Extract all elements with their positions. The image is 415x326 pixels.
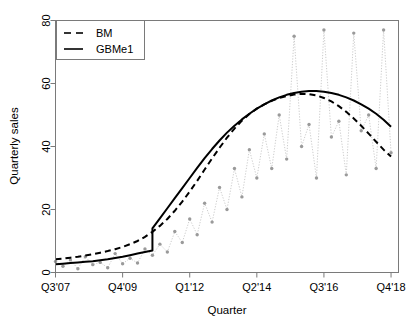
quarterly-sales-chart: 020406080 Q3'07Q4'09Q1'12Q2'14Q3'16Q4'18… [0,0,415,326]
x-axis-tick-label: Q2'14 [242,281,271,293]
observed-data-point [136,261,139,264]
observed-data-point [345,173,348,176]
observed-data-point [270,167,273,170]
observed-data-point [382,28,385,31]
observed-data-point [248,148,251,151]
chart-legend: BM GBMe1 [57,21,145,60]
observed-data-point [121,262,124,265]
observed-data-point [322,28,325,31]
observed-data-point [360,129,363,132]
y-axis-tick-label: 60 [40,77,52,89]
x-axis-tick-label: Q4'09 [108,281,137,293]
observed-data-point [367,113,370,116]
observed-data-point [240,195,243,198]
observed-data-point [195,233,198,236]
observed-data-point [374,167,377,170]
observed-data-point [210,220,213,223]
observed-data-point [352,31,355,34]
observed-data-point [218,186,221,189]
observed-data-point [128,257,131,260]
y-axis-tick-label: 0 [40,269,52,275]
observed-data-point [300,145,303,148]
x-axis-tick-label: Q4'18 [377,281,406,293]
y-axis-title: Quarterly sales [8,107,20,185]
observed-data-point [158,242,161,245]
legend-label-gbme1: GBMe1 [96,43,133,55]
observed-data-point [181,241,184,244]
observed-data-point [203,202,206,205]
x-axis-tick-label: Q3'16 [309,281,338,293]
observed-data-point [61,265,64,268]
observed-data-point [330,135,333,138]
x-axis-tick-label: Q3'07 [41,281,70,293]
observed-data-point [91,263,94,266]
x-axis-tick-label: Q1'12 [175,281,204,293]
observed-data-point [263,132,266,135]
observed-data-point [173,230,176,233]
chart-figure: 020406080 Q3'07Q4'09Q1'12Q2'14Q3'16Q4'18… [0,0,415,326]
observed-data-point [255,176,258,179]
y-axis-tick-label: 80 [40,14,52,26]
observed-data-point [233,167,236,170]
y-axis-tick-label: 20 [40,203,52,215]
y-axis-tick-label: 40 [40,140,52,152]
observed-data-point [307,123,310,126]
observed-data-point [106,266,109,269]
observed-data-point [292,35,295,38]
observed-data-point [76,267,79,270]
observed-data-point [337,120,340,123]
observed-data-point [278,113,281,116]
observed-data-point [225,208,228,211]
observed-data-point [166,250,169,253]
observed-data-point [143,247,146,250]
observed-data-point [285,157,288,160]
legend-label-bm: BM [96,27,113,39]
observed-data-point [389,151,392,154]
observed-data-point [188,217,191,220]
observed-data-point [113,252,116,255]
observed-data-point [151,253,154,256]
x-axis-title: Quarter [208,304,247,316]
observed-data-point [315,176,318,179]
